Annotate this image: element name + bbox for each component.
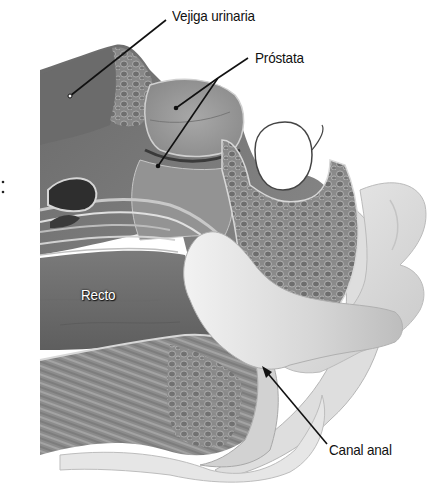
label-rectum: Recto bbox=[81, 286, 115, 303]
illustration bbox=[0, 0, 436, 485]
urethral-lumen bbox=[48, 178, 96, 211]
anatomy-diagram: Vejiga urinaria Próstata Recto Canal ana… bbox=[0, 0, 436, 485]
leader-prostate-1 bbox=[218, 58, 248, 78]
label-prostate: Próstata bbox=[255, 49, 304, 66]
label-bladder: Vejiga urinaria bbox=[172, 7, 255, 24]
label-anal-canal: Canal anal bbox=[329, 441, 392, 458]
